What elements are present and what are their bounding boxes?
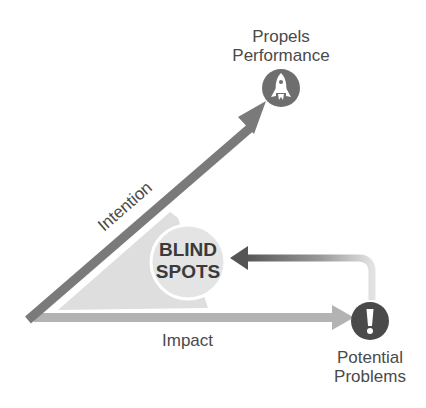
blind-spots-node: BLIND SPOTS (151, 225, 225, 299)
problems-label: Problems (334, 367, 406, 386)
blind-spots-line2: SPOTS (156, 261, 220, 282)
potential-label: Potential (337, 348, 403, 367)
intention-impact-diagram: BLIND SPOTS Propels Performance Potentia… (0, 0, 426, 408)
blind-spots-line1: BLIND (159, 239, 217, 260)
intention-label: Intention (94, 178, 156, 235)
feedback-arrow (230, 246, 372, 300)
impact-label: Impact (162, 331, 213, 350)
propels-performance-node: Propels Performance (232, 27, 329, 107)
performance-label: Performance (232, 46, 329, 65)
propels-label: Propels (252, 27, 310, 46)
